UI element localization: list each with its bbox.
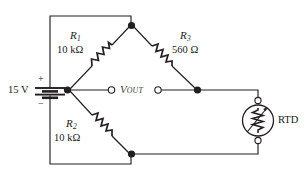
lead-r2-upper <box>70 91 92 115</box>
node-left-bridge <box>64 86 71 93</box>
vout-terminal-left <box>108 87 114 93</box>
label-source-voltage: 15 V <box>8 85 29 96</box>
resistor-r1-symbol <box>92 43 113 67</box>
label-r3-value: 560 Ω <box>172 45 198 56</box>
circuit-diagram: R1 10 kΩ R2 10 kΩ R3 560 Ω 15 V + − VOUT… <box>0 0 307 179</box>
lead-r2-lower <box>112 136 130 154</box>
label-battery-minus: − <box>38 99 44 109</box>
rtd-terminal-top <box>255 97 261 103</box>
circuit-schematic-svg <box>0 0 307 179</box>
label-r1-ref: R1 <box>70 30 80 41</box>
resistor-r3-symbol <box>152 44 172 66</box>
label-battery-plus: + <box>38 74 44 84</box>
node-top-apex <box>128 22 135 29</box>
label-r2-ref: R2 <box>66 118 76 129</box>
lead-r1-upper <box>112 26 130 45</box>
wire-battery-bottom-to-bottom-node <box>50 96 131 164</box>
rtd-symbol <box>243 105 274 136</box>
resistor-r2-symbol <box>92 113 112 136</box>
rtd-terminal-bottom <box>255 137 261 143</box>
lead-r3-upper <box>133 26 152 46</box>
wire-bottom-node-to-rtd-bottom <box>133 144 258 154</box>
label-r1-value: 10 kΩ <box>57 45 83 56</box>
lead-r1-lower <box>70 66 92 89</box>
node-right-bridge <box>194 86 201 93</box>
label-vout: VOUT <box>120 84 143 95</box>
node-bottom-bridge <box>128 150 135 157</box>
label-r2-value: 10 kΩ <box>54 133 80 144</box>
lead-r3-lower <box>172 66 196 89</box>
wire-right-node-to-rtd-top <box>199 90 258 97</box>
label-rtd: RTD <box>278 115 298 126</box>
vout-terminal-right <box>155 87 161 93</box>
label-r3-ref: R3 <box>180 30 190 41</box>
